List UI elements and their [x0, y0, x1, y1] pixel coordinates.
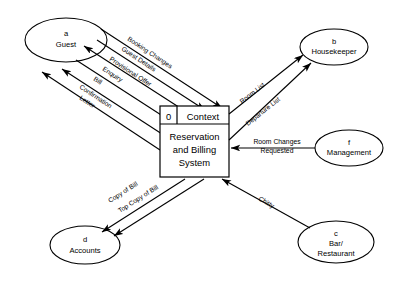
- flow-room-changes-requested-label-1: Room Changes: [253, 138, 301, 146]
- entity-bar-restaurant-label-2: Restaurant: [317, 249, 355, 258]
- entity-accounts[interactable]: d Accounts: [50, 226, 120, 264]
- entity-housekeeper-id: b: [332, 37, 336, 46]
- dfd-canvas: a Guest b Housekeeper f Management c Bar…: [0, 0, 399, 281]
- flow-room-changes-requested-label-2: Requested: [261, 147, 294, 155]
- entity-bar-restaurant-label-1: Bar/: [329, 239, 344, 248]
- dfd-svg: a Guest b Housekeeper f Management c Bar…: [0, 0, 399, 281]
- flow-room-changes-requested: Room Changes Requested: [231, 138, 315, 155]
- entity-management-label: Management: [327, 148, 372, 157]
- entity-accounts-id: d: [83, 235, 87, 244]
- entity-guest[interactable]: a Guest: [25, 18, 107, 62]
- entity-guest-label: Guest: [56, 40, 77, 49]
- process-context[interactable]: 0 Context Reservation and Billing System: [160, 106, 229, 177]
- process-name-line-1: Reservation: [169, 131, 219, 142]
- flow-copy-of-bill: Copy of Bill: [102, 179, 185, 232]
- flow-departure-list-label: Departure List: [244, 95, 282, 127]
- process-name-line-3: System: [179, 157, 210, 168]
- flow-copy-of-bill-line: [102, 179, 185, 232]
- process-id-label: 0: [166, 111, 171, 122]
- flow-room-list-label: Room List: [238, 81, 266, 105]
- entity-management[interactable]: f Management: [315, 130, 383, 166]
- flow-chitty: Chitty: [222, 179, 310, 228]
- entity-accounts-label: Accounts: [69, 246, 100, 255]
- entity-housekeeper[interactable]: b Housekeeper: [300, 29, 368, 65]
- process-header-label: Context: [187, 111, 220, 122]
- entity-bar-restaurant-id: c: [334, 229, 338, 238]
- entity-housekeeper-label: Housekeeper: [311, 47, 357, 56]
- process-name-line-2: and Billing: [173, 144, 216, 155]
- entity-accounts-shape: [50, 226, 120, 264]
